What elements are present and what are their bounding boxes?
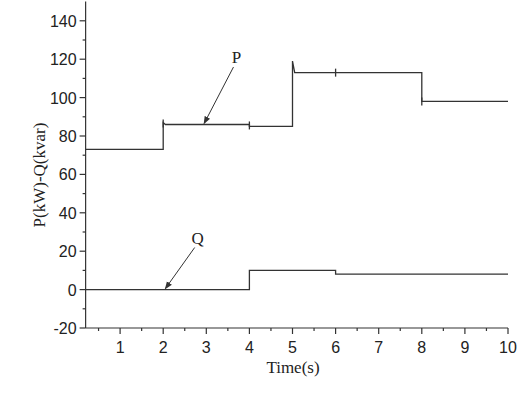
x-tick-label: 7 xyxy=(374,339,383,356)
x-tick-label: 9 xyxy=(460,339,469,356)
x-tick-label: 6 xyxy=(331,339,340,356)
y-tick-label: 80 xyxy=(59,128,77,145)
annotations: PQ xyxy=(165,48,241,289)
y-tick-label: 0 xyxy=(68,282,77,299)
axes xyxy=(86,2,508,328)
x-axis-ticks: 12345678910 xyxy=(99,328,517,356)
x-axis-title: Time(s) xyxy=(266,358,319,377)
annotation-label-p: P xyxy=(232,48,241,67)
x-tick-label: 2 xyxy=(159,339,168,356)
annotation-arrow-q xyxy=(165,248,194,289)
y-axis-ticks: -20020406080100120140 xyxy=(50,13,86,337)
x-tick-label: 10 xyxy=(499,339,517,356)
series-group xyxy=(86,61,508,290)
x-tick-label: 1 xyxy=(116,339,125,356)
chart: -20020406080100120140 12345678910 PQ Tim… xyxy=(0,0,523,401)
y-tick-label: 20 xyxy=(59,243,77,260)
y-tick-label: -20 xyxy=(53,320,76,337)
annotation-label-q: Q xyxy=(192,229,204,248)
y-axis-title: P(kW)-Q(kvar) xyxy=(30,123,49,228)
y-tick-label: 40 xyxy=(59,205,77,222)
x-tick-label: 4 xyxy=(245,339,254,356)
y-tick-label: 60 xyxy=(59,166,77,183)
annotation-arrow-p xyxy=(204,67,233,123)
x-tick-label: 8 xyxy=(417,339,426,356)
y-tick-label: 120 xyxy=(50,51,77,68)
x-tick-label: 5 xyxy=(288,339,297,356)
y-tick-label: 100 xyxy=(50,90,77,107)
y-tick-label: 140 xyxy=(50,13,77,30)
series-p-line xyxy=(86,61,508,149)
series-q-line xyxy=(86,270,508,289)
x-tick-label: 3 xyxy=(202,339,211,356)
